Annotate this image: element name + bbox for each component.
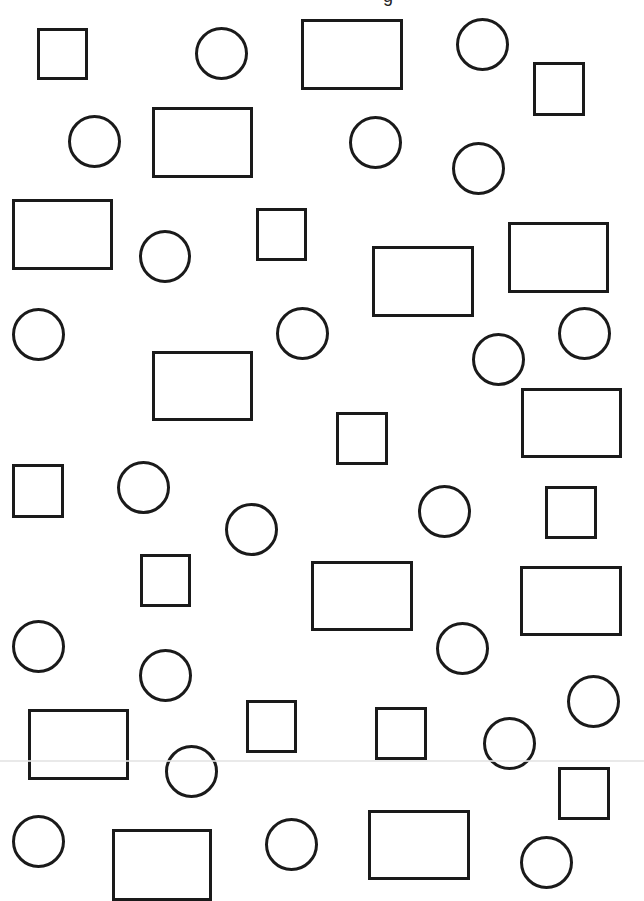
circle-shape	[225, 503, 278, 556]
rectangle-shape	[301, 19, 403, 90]
square-shape	[37, 28, 88, 80]
square-shape	[246, 700, 297, 753]
square-shape	[375, 707, 427, 760]
square-shape	[336, 412, 388, 465]
circle-shape	[265, 818, 318, 871]
circle-shape	[12, 308, 65, 361]
circle-shape	[483, 717, 536, 770]
circle-shape	[117, 461, 170, 514]
circle-shape	[436, 622, 489, 675]
circle-shape	[139, 230, 191, 283]
circle-shape	[12, 620, 65, 673]
rectangle-shape	[368, 810, 470, 880]
circle-shape	[12, 815, 65, 868]
circle-shape	[276, 307, 329, 360]
rectangle-shape	[152, 107, 253, 178]
square-shape	[140, 554, 191, 607]
rectangle-shape	[520, 566, 622, 636]
rectangle-shape	[112, 829, 212, 901]
circle-shape	[165, 745, 218, 798]
square-shape	[558, 767, 610, 820]
rectangle-shape	[521, 388, 622, 458]
square-shape	[12, 464, 64, 518]
circle-shape	[68, 115, 121, 168]
circle-shape	[418, 485, 471, 538]
square-shape	[545, 486, 597, 539]
circle-shape	[456, 18, 509, 71]
square-shape	[256, 208, 307, 261]
circle-shape	[567, 675, 620, 728]
scan-artifact-line	[0, 760, 644, 762]
rectangle-shape	[12, 199, 113, 270]
rectangle-shape	[152, 351, 253, 421]
rectangle-shape	[28, 709, 129, 780]
circle-shape	[452, 142, 505, 195]
circle-shape	[558, 307, 611, 360]
circle-shape	[520, 836, 573, 889]
rectangle-shape	[372, 246, 474, 317]
circle-shape	[349, 116, 402, 169]
circle-shape	[472, 333, 525, 386]
worksheet-title-fragment: g	[383, 0, 393, 6]
rectangle-shape	[508, 222, 609, 293]
square-shape	[533, 62, 585, 116]
rectangle-shape	[311, 561, 413, 631]
circle-shape	[139, 649, 192, 702]
circle-shape	[195, 27, 248, 80]
